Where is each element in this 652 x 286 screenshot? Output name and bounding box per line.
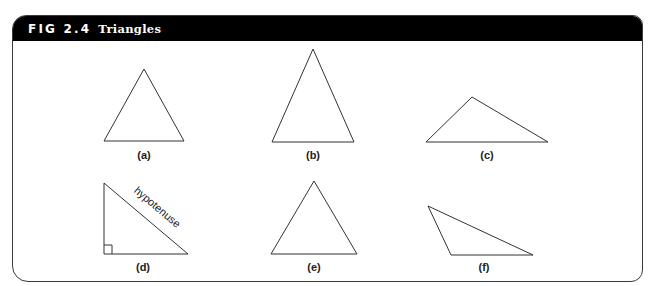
triangle-a-shape [104, 69, 184, 141]
triangle-c: (c) [426, 97, 548, 161]
triangles-diagram: (a) (b) (c) hypotenuse (d) (e) (f) [0, 0, 652, 286]
triangle-a-label: (a) [137, 149, 151, 161]
triangle-b-label: (b) [306, 149, 320, 161]
triangle-c-label: (c) [480, 149, 494, 161]
triangle-d-label: (d) [136, 261, 150, 273]
triangle-b-shape [272, 49, 354, 142]
triangle-e: (e) [271, 181, 357, 273]
triangle-a: (a) [104, 69, 184, 161]
triangle-e-label: (e) [307, 261, 321, 273]
triangle-c-shape [426, 97, 548, 142]
triangle-f-shape [428, 206, 533, 255]
triangle-d: hypotenuse (d) [104, 183, 188, 273]
triangle-f-label: (f) [479, 261, 490, 273]
triangle-f: (f) [428, 206, 533, 273]
hypotenuse-label: hypotenuse [132, 184, 183, 230]
triangle-b: (b) [272, 49, 354, 161]
right-angle-marker [104, 245, 112, 254]
triangle-e-shape [271, 181, 357, 254]
